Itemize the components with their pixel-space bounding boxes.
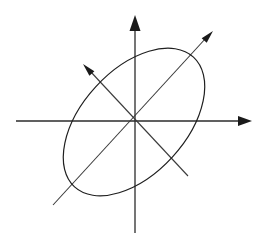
figure-canvas bbox=[0, 0, 272, 243]
ellipse-axes-diagram bbox=[0, 0, 272, 243]
